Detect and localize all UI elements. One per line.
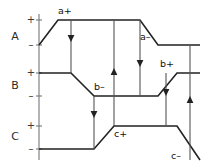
arrow-head-b-minus-to-c-plus <box>91 111 98 118</box>
causal-arrow-c-plus-to-a-minus <box>111 20 118 126</box>
arrow-head-c-minus-to-a-plus <box>187 96 194 103</box>
arrow-head-b-plus-to-c-minus <box>163 89 170 96</box>
arrow-head-c-plus-to-a-minus <box>111 68 118 75</box>
timing-diagram-svg: A+–B+–C+– a+a–b–b+c+c– <box>0 0 207 166</box>
event-label-2: b– <box>94 81 105 92</box>
signal-trace-b <box>39 73 200 96</box>
event-label-1: a– <box>140 31 151 42</box>
causal-arrow-b-plus-to-c-minus <box>163 73 170 126</box>
event-label-4: c+ <box>114 128 127 139</box>
causal-arrow-a-plus-to-b-minus <box>68 20 75 73</box>
axis-name-c: C <box>11 130 19 143</box>
axis-plus-sign-a: + <box>27 14 35 25</box>
axis-minus-sign-c: – <box>29 143 34 154</box>
axis-plus-sign-c: + <box>27 120 35 131</box>
axis-plus-sign-b: + <box>27 67 35 78</box>
arrow-head-a-minus-to-b-plus <box>137 60 144 67</box>
timing-diagram-canvas: A+–B+–C+– a+a–b–b+c+c– <box>0 0 207 166</box>
axis-minus-sign-a: – <box>29 39 34 50</box>
causal-arrow-group <box>68 20 194 160</box>
arrow-head-a-plus-to-b-minus <box>68 35 75 42</box>
event-label-0: a+ <box>58 5 72 16</box>
axis-name-a: A <box>11 30 19 43</box>
axis-minus-sign-b: – <box>29 90 34 101</box>
signal-trace-a <box>39 20 200 45</box>
event-label-3: b+ <box>160 58 174 69</box>
axis-name-b: B <box>11 79 19 92</box>
causal-arrow-b-minus-to-c-plus <box>91 96 98 149</box>
axis-label-group: A+–B+–C+– <box>11 14 35 154</box>
event-label-5: c– <box>171 150 181 161</box>
signal-trace-group <box>39 20 200 160</box>
event-label-group: a+a–b–b+c+c– <box>58 5 181 161</box>
